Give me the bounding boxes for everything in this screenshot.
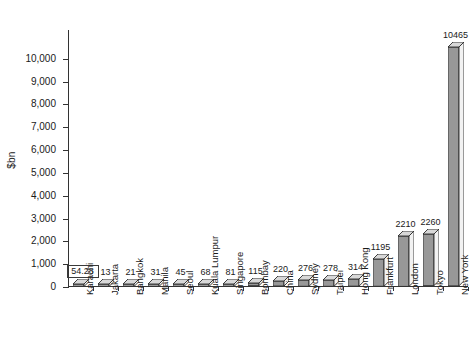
x-axis-label-manila: Manila bbox=[160, 267, 170, 295]
y-axis-title: $bn bbox=[6, 148, 17, 172]
y-axis-tick-label: 9,000 bbox=[31, 75, 56, 88]
bar-value-label: 2210 bbox=[392, 219, 420, 230]
x-axis-label-seoul: Seoul bbox=[185, 271, 195, 295]
x-axis-label-china: China bbox=[285, 270, 295, 295]
y-axis-tick: 9,000 bbox=[63, 82, 68, 83]
y-axis-tick-label: 10,000 bbox=[25, 52, 56, 65]
x-axis-label-taipei: Taipei bbox=[335, 270, 345, 295]
x-axis-label-kuala-lumpur: Kuala Lumpur bbox=[210, 236, 220, 295]
x-axis-label-singapore: Singapore bbox=[235, 252, 245, 295]
y-axis-tick: 10,000 bbox=[63, 59, 68, 60]
y-axis-tick-label: 7,000 bbox=[31, 120, 56, 133]
y-axis-tick: 4,000 bbox=[63, 196, 68, 197]
bar-front-face bbox=[398, 236, 409, 286]
x-axis-label-karachi: Karachi bbox=[85, 263, 95, 295]
x-axis-label-london: London bbox=[410, 263, 420, 295]
x-axis-label-hong-kong: Hong Kong bbox=[360, 247, 370, 295]
bar-front-face bbox=[448, 47, 459, 286]
bar-front-face bbox=[423, 234, 434, 286]
y-axis-tick: 7,000 bbox=[63, 127, 68, 128]
y-axis-tick-label: 5,000 bbox=[31, 166, 56, 179]
y-axis-tick-label: 6,000 bbox=[31, 143, 56, 156]
y-axis-tick: 2,000 bbox=[63, 241, 68, 242]
x-axis-label-new-york: New York bbox=[460, 255, 470, 295]
x-axis-label-bangkok: Bangkok bbox=[135, 258, 145, 295]
y-axis-tick-label: 3,000 bbox=[31, 212, 56, 225]
bar-side-face bbox=[459, 42, 464, 286]
y-axis-tick-label: 1,000 bbox=[31, 257, 56, 270]
bar-chart: $bn 01,0002,0003,0004,0005,0006,0007,000… bbox=[0, 0, 474, 364]
y-axis-tick-label: 2,000 bbox=[31, 234, 56, 247]
x-axis-label-frankfurt: Frankfurt bbox=[385, 257, 395, 295]
bar-front-face bbox=[348, 279, 359, 286]
bar-value-label: 1195 bbox=[367, 242, 395, 253]
x-axis-label-jakarta: Jakarta bbox=[110, 264, 120, 295]
y-axis-tick-label: 4,000 bbox=[31, 189, 56, 202]
y-axis-tick: 5,000 bbox=[63, 173, 68, 174]
bar-value-label: 2260 bbox=[417, 217, 445, 228]
y-axis-tick-label: 0 bbox=[50, 280, 56, 293]
y-axis-tick: 6,000 bbox=[63, 150, 68, 151]
bar-front-face bbox=[323, 280, 334, 286]
bar-front-face bbox=[273, 281, 284, 286]
x-axis-label-sydney: Sydney bbox=[310, 263, 320, 295]
bar-front-face bbox=[298, 280, 309, 286]
x-axis-label-bombay: Bombay bbox=[260, 260, 270, 295]
bar-3d-shape bbox=[448, 42, 464, 286]
y-axis-tick: 0 bbox=[63, 287, 68, 288]
bar-new-york[interactable] bbox=[448, 42, 464, 286]
bar-value-label: 10465 bbox=[442, 30, 470, 41]
y-axis-line bbox=[68, 30, 69, 288]
y-axis-tick: 8,000 bbox=[63, 104, 68, 105]
x-axis-label-tokyo: Tokyo bbox=[435, 270, 445, 295]
bar-front-face bbox=[373, 259, 384, 286]
y-axis-tick-label: 8,000 bbox=[31, 97, 56, 110]
y-axis-tick: 3,000 bbox=[63, 219, 68, 220]
plot-area: 01,0002,0003,0004,0005,0006,0007,0008,00… bbox=[68, 30, 468, 287]
